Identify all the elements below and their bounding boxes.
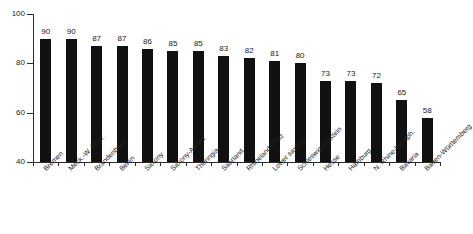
x-axis-tick	[287, 163, 288, 166]
x-axis-tick	[364, 163, 365, 166]
bar	[40, 39, 51, 162]
bar-value-label: 86	[134, 38, 160, 46]
bar-value-label: 73	[313, 70, 339, 78]
x-axis-tick	[160, 163, 161, 166]
bar-value-label: 87	[84, 35, 110, 43]
bar-value-label: 72	[363, 72, 389, 80]
x-axis-tick	[415, 163, 416, 166]
bar-value-label: 87	[109, 35, 135, 43]
x-axis-tick	[211, 163, 212, 166]
bar	[396, 100, 407, 162]
bar-value-label: 65	[389, 89, 415, 97]
bar	[345, 81, 356, 162]
bar-value-label: 80	[287, 52, 313, 60]
x-axis-tick	[262, 163, 263, 166]
x-axis-tick	[58, 163, 59, 166]
bar-value-label: 73	[338, 70, 364, 78]
bar-value-label: 58	[414, 107, 440, 115]
x-axis-tick	[186, 163, 187, 166]
bar-value-label: 85	[160, 40, 186, 48]
y-axis-tick-label: 60	[0, 109, 25, 117]
bar	[371, 83, 382, 162]
bar-value-label: 90	[33, 28, 59, 36]
x-axis-tick	[338, 163, 339, 166]
bar	[218, 56, 229, 162]
bar	[244, 58, 255, 162]
x-axis-tick	[440, 163, 441, 166]
bar	[142, 49, 153, 162]
x-axis-tick	[135, 163, 136, 166]
y-axis-tick-label: 40	[0, 158, 25, 166]
bar	[66, 39, 77, 162]
x-axis-tick	[84, 163, 85, 166]
x-axis-tick	[33, 163, 34, 166]
x-axis-tick	[389, 163, 390, 166]
bar	[167, 51, 178, 162]
x-axis-tick	[313, 163, 314, 166]
y-axis-tick-label: 100	[0, 10, 25, 18]
bar-value-label: 81	[262, 50, 288, 58]
bar-value-label: 82	[236, 47, 262, 55]
bar-value-label: 83	[211, 45, 237, 53]
bar-value-label: 90	[58, 28, 84, 36]
x-axis-tick	[237, 163, 238, 166]
bar-value-label: 85	[185, 40, 211, 48]
x-axis-tick	[109, 163, 110, 166]
bar	[422, 118, 433, 162]
y-axis-tick-label: 80	[0, 59, 25, 67]
